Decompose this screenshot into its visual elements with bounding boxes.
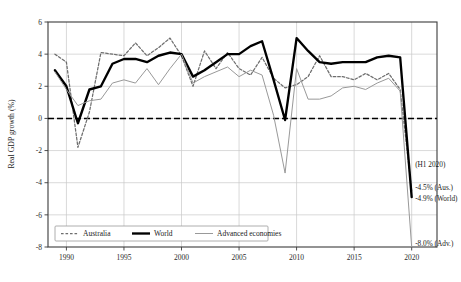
y-tick-label: -8 bbox=[36, 243, 42, 252]
y-tick-label: 0 bbox=[38, 114, 42, 123]
x-tick-label: 2015 bbox=[347, 253, 362, 262]
y-tick-label: 2 bbox=[38, 82, 42, 91]
legend-label-australia: Australia bbox=[83, 229, 111, 238]
legend-label-advanced-economies: Advanced economies bbox=[217, 229, 281, 238]
legend-label-world: World bbox=[154, 229, 173, 238]
annotation-h1-2020: (H1 2020) bbox=[415, 160, 446, 169]
x-tick-label: 1990 bbox=[59, 253, 74, 262]
y-axis-title: Real GDP growth (%) bbox=[7, 99, 16, 169]
x-tick-label: 2000 bbox=[174, 253, 189, 262]
chart-legend: AustraliaWorldAdvanced economies bbox=[55, 226, 281, 241]
y-tick-label: -4 bbox=[36, 178, 42, 187]
annotation-adv-2020: -8.0% (Adv.) bbox=[415, 239, 454, 248]
x-tick-label: 2010 bbox=[289, 253, 304, 262]
real-gdp-growth-line-chart: 6420-2-4-6-8 199019952000200520102015202… bbox=[0, 0, 461, 282]
y-tick-label: 4 bbox=[38, 50, 42, 59]
y-tick-label: -6 bbox=[36, 211, 42, 220]
y-tick-label: -2 bbox=[36, 146, 42, 155]
annotation-world-2020: -4.9% (World) bbox=[415, 194, 458, 203]
chart-container: 6420-2-4-6-8 199019952000200520102015202… bbox=[0, 0, 461, 282]
x-tick-label: 2005 bbox=[232, 253, 247, 262]
x-tick-label: 1995 bbox=[116, 253, 131, 262]
annotation-aus-2020: -4.5% (Aus.) bbox=[415, 183, 453, 192]
y-tick-label: 6 bbox=[38, 18, 42, 27]
x-tick-label: 2020 bbox=[404, 253, 419, 262]
